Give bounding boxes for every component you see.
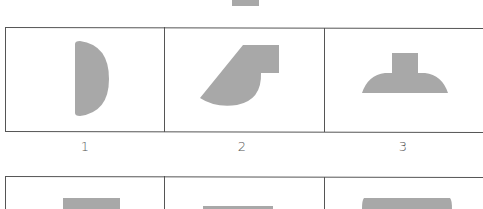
option-2-shape[interactable]	[200, 45, 279, 106]
option-1-label: 1	[75, 139, 95, 154]
option-2-label: 2	[232, 139, 252, 154]
option-4-shape[interactable]	[63, 198, 120, 209]
figure-canvas	[0, 0, 483, 209]
top-partial-shape	[232, 0, 259, 6]
option-3-label: 3	[393, 139, 413, 154]
option-5-shape[interactable]	[203, 206, 273, 209]
option-3-shape[interactable]	[362, 53, 448, 93]
option-1-shape[interactable]	[75, 41, 109, 116]
option-6-shape[interactable]	[362, 198, 452, 209]
